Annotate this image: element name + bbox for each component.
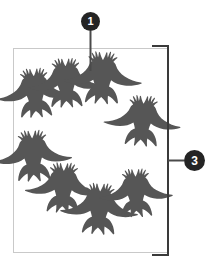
callout-badge-3[interactable]: 3 <box>184 150 205 171</box>
bird-flock <box>0 50 183 236</box>
right-bracket <box>152 46 168 255</box>
figure-container: 1 3 <box>0 0 216 267</box>
bird-silhouette <box>102 93 182 149</box>
callout-badge-1[interactable]: 1 <box>81 12 100 31</box>
callout-badge-1-label: 1 <box>87 16 93 27</box>
figure-illustration <box>0 0 216 267</box>
callout-badge-3-label: 3 <box>191 154 198 166</box>
